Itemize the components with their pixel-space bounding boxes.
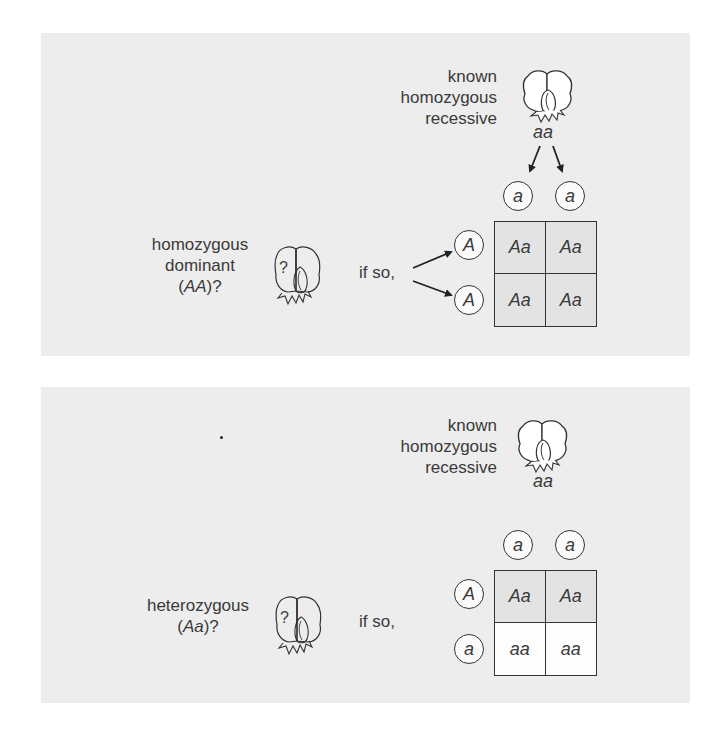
punnett-square: Aa Aa Aa Aa [494, 221, 597, 327]
punnett-cell: aa [546, 623, 597, 675]
if-so-label: if so, [359, 611, 395, 632]
svg-text:?: ? [279, 259, 288, 276]
punnett-cell: Aa [546, 274, 597, 326]
svg-text:?: ? [280, 609, 289, 626]
label-line: heterozygous [133, 595, 263, 616]
white-pea-flower-icon [515, 418, 573, 474]
question-pea-flower-icon: ? [272, 245, 324, 307]
gamete-circle: a [454, 634, 484, 664]
unknown-genotype: (Aa)? [133, 616, 263, 637]
gamete-circle: a [555, 181, 585, 211]
if-so-label: if so, [359, 262, 395, 283]
punnett-cell: aa [495, 623, 546, 675]
known-parent-label: known homozygous recessive [380, 415, 497, 478]
label-line: known [380, 415, 497, 436]
punnett-cell: Aa [495, 274, 546, 326]
known-genotype: aa [533, 471, 553, 491]
gamete-circle: A [454, 579, 484, 609]
unknown-parent-label: homozygous dominant (AA)? [145, 234, 255, 297]
label-line: homozygous [380, 436, 497, 457]
gamete-circle: a [503, 181, 533, 211]
gamete-circle: a [555, 530, 585, 560]
punnett-cell: Aa [495, 222, 546, 274]
gamete-circle: A [454, 230, 484, 260]
label-line: recessive [380, 457, 497, 478]
punnett-cell: Aa [546, 222, 597, 274]
punnett-cell: Aa [495, 571, 546, 623]
punnett-square: Aa Aa aa aa [494, 570, 597, 676]
label-line: dominant [145, 255, 255, 276]
label-line: homozygous [145, 234, 255, 255]
gamete-circle: A [454, 285, 484, 315]
unknown-genotype: (AA)? [145, 276, 255, 297]
punnett-cell: Aa [546, 571, 597, 623]
question-pea-flower-icon: ? [273, 595, 325, 657]
unknown-parent-label: heterozygous (Aa)? [133, 595, 263, 637]
stray-dot [220, 436, 223, 439]
gamete-circle: a [503, 530, 533, 560]
